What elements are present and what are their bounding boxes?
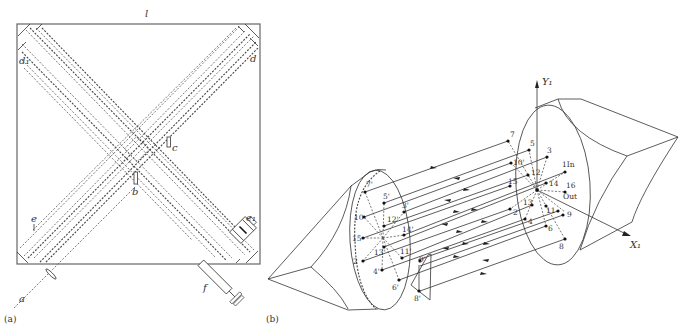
svg-text:4': 4' (373, 267, 380, 276)
svg-text:15: 15 (352, 234, 362, 243)
label-l: l (145, 8, 148, 19)
svg-text:16: 16 (566, 181, 576, 190)
label-a: a (19, 293, 25, 304)
svg-text:3': 3' (402, 201, 409, 210)
y1-arrow-icon (535, 80, 539, 88)
svg-text:5': 5' (383, 192, 390, 201)
svg-text:5: 5 (530, 139, 535, 148)
svg-text:4: 4 (528, 217, 533, 226)
panel-b-caption: (b) (266, 314, 279, 324)
label-c: c (172, 142, 178, 153)
element-c (167, 137, 171, 147)
svg-text:8': 8' (414, 294, 421, 303)
svg-text:7': 7' (366, 180, 373, 189)
svg-text:15: 15 (508, 177, 518, 186)
label-d1: d₁ (19, 55, 29, 66)
svg-text:10: 10 (354, 213, 364, 222)
label-e: e (31, 213, 37, 224)
panel-a-caption: (a) (4, 314, 16, 324)
svg-text:14': 14' (402, 225, 414, 234)
label-d: d (250, 53, 256, 64)
y1-axis-label: Y₁ (542, 76, 553, 87)
svg-text:3: 3 (547, 146, 552, 155)
svg-text:13': 13' (374, 248, 386, 257)
svg-text:11': 11' (400, 247, 412, 256)
right-cone (535, 99, 678, 250)
left-mirror-spots (361, 190, 421, 292)
svg-text:12': 12' (387, 215, 399, 224)
x1-axis-label: X₁ (629, 239, 641, 250)
svg-text:6': 6' (392, 283, 399, 292)
svg-text:14: 14 (549, 179, 559, 188)
svg-text:13: 13 (523, 198, 533, 207)
label-b: b (132, 186, 138, 197)
label-e1: e₁ (246, 212, 256, 223)
svg-text:2: 2 (353, 257, 358, 266)
svg-text:12: 12 (531, 168, 541, 177)
crossing-region (124, 136, 149, 161)
beams-diagonal-2 (14, 26, 258, 308)
svg-text:Out: Out (563, 192, 577, 201)
input-lens (45, 268, 57, 280)
svg-text:9: 9 (567, 210, 572, 219)
svg-text:2: 2 (513, 208, 518, 217)
corner-mirrors (17, 24, 259, 263)
panel-b: Y₁ X₁ (266, 76, 678, 324)
svg-text:1In: 1In (562, 160, 575, 169)
element-b (134, 172, 138, 184)
svg-text:9': 9' (419, 255, 426, 264)
svg-text:11: 11 (546, 206, 556, 215)
cell-frame (17, 24, 260, 264)
x1-arrow-icon (622, 231, 631, 236)
panel-a: l (4, 8, 260, 324)
figure-canvas: l (0, 0, 693, 328)
svg-text:7: 7 (510, 130, 515, 139)
beams-diagonal-1 (22, 28, 254, 260)
svg-text:8: 8 (559, 242, 564, 251)
svg-text:6: 6 (548, 224, 553, 233)
svg-text:10': 10' (513, 158, 525, 167)
label-f: f (202, 282, 209, 293)
